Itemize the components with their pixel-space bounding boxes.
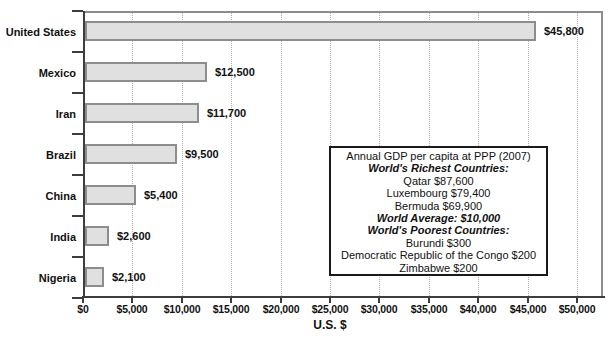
bar	[85, 185, 136, 205]
y-axis-tick	[72, 10, 83, 12]
x-tick-label: $50,000	[547, 303, 607, 315]
bar	[85, 226, 109, 246]
category-label: China	[0, 189, 76, 203]
annotation-line: Zimbabwe $200	[331, 262, 546, 274]
value-label: $9,500	[185, 147, 219, 161]
y-axis-tick	[72, 92, 83, 94]
annotation-line: Luxembourg $79,400	[331, 187, 546, 199]
annotation-line: Democratic Republic of the Congo $200	[331, 249, 546, 261]
y-axis-tick	[72, 51, 83, 53]
category-label: Mexico	[0, 66, 76, 80]
x-axis-tick	[280, 296, 282, 303]
x-axis-tick	[181, 296, 183, 303]
y-axis-tick	[72, 215, 83, 217]
value-label: $5,400	[144, 188, 178, 202]
category-label: Brazil	[0, 148, 76, 162]
category-label: United States	[0, 25, 76, 39]
x-axis-tick	[477, 296, 479, 303]
value-label: $45,800	[544, 24, 584, 38]
gridline	[182, 13, 183, 296]
annotation-line: World's Richest Countries:	[331, 162, 546, 174]
value-label: $2,100	[112, 270, 146, 284]
bar	[85, 21, 536, 41]
bar	[85, 103, 199, 123]
value-label: $11,700	[207, 106, 246, 120]
annotation-line: Annual GDP per capita at PPP (2007)	[331, 150, 546, 162]
y-axis-tick	[72, 174, 83, 176]
annotation-box: Annual GDP per capita at PPP (2007)World…	[329, 146, 548, 276]
y-axis-tick	[72, 133, 83, 135]
y-axis-tick	[72, 256, 83, 258]
x-axis-tick	[576, 296, 578, 303]
x-axis-tick	[82, 296, 84, 303]
bar	[85, 144, 177, 164]
bar	[85, 62, 207, 82]
x-axis-tick	[428, 296, 430, 303]
x-axis-tick	[131, 296, 133, 303]
value-label: $12,500	[215, 65, 255, 79]
annotation-line: Bermuda $69,900	[331, 200, 546, 212]
x-axis-tick	[527, 296, 529, 303]
x-axis-tick	[378, 296, 380, 303]
bar	[85, 267, 104, 287]
gridline	[231, 13, 232, 296]
annotation-line: Qatar $87,600	[331, 175, 546, 187]
cropped-chart-title: Annual GDP per capita at PPP (2007)	[0, 0, 608, 4]
annotation-line: Burundi $300	[331, 237, 546, 249]
value-label: $2,600	[117, 229, 151, 243]
gridline	[577, 13, 578, 296]
gdp-bar-chart: Annual GDP per capita at PPP (2007) U.S.…	[0, 0, 608, 342]
category-label: Nigeria	[0, 271, 76, 285]
gridline	[281, 13, 282, 296]
y-axis	[83, 11, 85, 298]
x-axis-tick	[329, 296, 331, 303]
category-label: India	[0, 230, 76, 244]
annotation-line: World's Poorest Countries:	[331, 224, 546, 236]
x-axis-title: U.S. $	[83, 318, 577, 332]
x-axis-tick	[230, 296, 232, 303]
annotation-line: World Average: $10,000	[331, 212, 546, 224]
category-label: Iran	[0, 107, 76, 121]
